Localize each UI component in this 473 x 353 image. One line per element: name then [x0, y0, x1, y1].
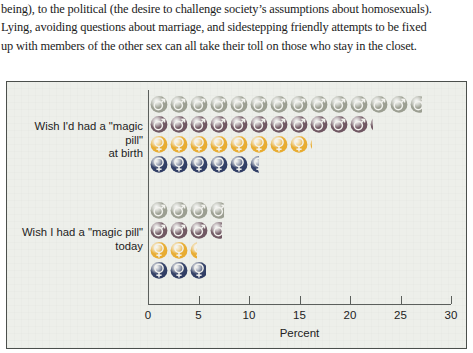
x-tick-label-0: 0: [145, 309, 151, 321]
male-symbol-icon: [269, 94, 289, 114]
category-label-1: Wish I'd had a "magic pill"at birth: [17, 120, 143, 161]
male-symbol-icon: [389, 94, 409, 114]
x-tick-15: [300, 296, 301, 304]
female-symbol-icon: [269, 134, 289, 154]
x-tick-label-15: 15: [293, 309, 306, 321]
male-symbol-icon: [189, 200, 209, 220]
female-symbol-icon: [169, 260, 189, 280]
pictogram-row-series-2-group-1: [149, 114, 373, 134]
male-symbol-icon: [209, 220, 222, 240]
male-symbol-icon: [169, 220, 189, 240]
male-symbol-icon: [329, 114, 349, 134]
pictogram-row-series-1-group-1: [149, 94, 422, 114]
x-tick-20: [350, 296, 351, 304]
male-symbol-icon: [149, 94, 169, 114]
x-axis-line: [148, 304, 451, 305]
prose-line: up with members of the other sex can all…: [1, 37, 473, 55]
female-symbol-icon: [209, 154, 229, 174]
pictogram-row-series-4-group-2: [149, 260, 206, 280]
male-symbol-icon: [309, 114, 329, 134]
x-tick-5: [199, 296, 200, 304]
x-tick-label-25: 25: [394, 309, 407, 321]
male-symbol-icon: [189, 94, 209, 114]
male-symbol-icon: [149, 220, 169, 240]
male-symbol-icon: [329, 94, 349, 114]
x-tick-25: [401, 296, 402, 304]
female-symbol-icon: [189, 134, 209, 154]
male-symbol-icon: [289, 94, 309, 114]
pictogram-row-series-3-group-1: [149, 134, 312, 154]
x-tick-label-30: 30: [445, 309, 458, 321]
male-symbol-icon: [169, 200, 189, 220]
x-tick-10: [249, 296, 250, 304]
female-symbol-icon: [309, 134, 312, 154]
male-symbol-icon: [209, 114, 229, 134]
male-symbol-icon: [189, 114, 209, 134]
female-symbol-icon: [169, 134, 189, 154]
x-tick-label-10: 10: [243, 309, 256, 321]
pictogram-row-series-4-group-1: [149, 154, 259, 174]
x-axis-title: Percent: [148, 327, 451, 339]
female-symbol-icon: [209, 134, 229, 154]
category-label-line: today: [17, 240, 143, 254]
male-symbol-icon: [169, 94, 189, 114]
body-text: being), to the political (the desire to …: [0, 0, 473, 78]
male-symbol-icon: [169, 114, 189, 134]
male-symbol-icon: [309, 94, 329, 114]
male-symbol-icon: [229, 94, 249, 114]
male-symbol-icon: [369, 94, 389, 114]
female-symbol-icon: [289, 134, 309, 154]
female-symbol-icon: [149, 260, 169, 280]
male-symbol-icon: [209, 94, 229, 114]
male-symbol-icon: [349, 114, 369, 134]
female-symbol-icon: [169, 240, 189, 260]
male-symbol-icon: [349, 94, 369, 114]
male-symbol-icon: [209, 200, 224, 220]
female-symbol-icon: [169, 154, 189, 174]
category-label-line: at birth: [17, 147, 143, 161]
pictogram-row-series-1-group-2: [149, 200, 224, 220]
male-symbol-icon: [409, 94, 422, 114]
category-label-2: Wish I had a "magic pill"today: [17, 226, 143, 253]
female-symbol-icon: [229, 154, 249, 174]
female-symbol-icon: [189, 240, 197, 260]
x-tick-0: [148, 296, 149, 304]
female-symbol-icon: [229, 134, 249, 154]
x-tick-30: [451, 296, 452, 304]
male-symbol-icon: [249, 114, 269, 134]
female-symbol-icon: [149, 154, 169, 174]
figure-pictogram-chart: 051015202530 Percent Wish I'd had a "mag…: [6, 81, 467, 349]
x-tick-label-20: 20: [344, 309, 357, 321]
male-symbol-icon: [229, 114, 249, 134]
male-symbol-icon: [289, 114, 309, 134]
male-symbol-icon: [189, 220, 209, 240]
male-symbol-icon: [249, 94, 269, 114]
male-symbol-icon: [149, 200, 169, 220]
female-symbol-icon: [189, 260, 206, 280]
pictogram-row-series-3-group-2: [149, 240, 197, 260]
female-symbol-icon: [149, 134, 169, 154]
category-label-line: Wish I had a "magic pill": [17, 226, 143, 240]
male-symbol-icon: [269, 114, 289, 134]
prose-line: being), to the political (the desire to …: [1, 0, 473, 18]
male-symbol-icon: [149, 114, 169, 134]
female-symbol-icon: [189, 154, 209, 174]
female-symbol-icon: [249, 134, 269, 154]
plot-area: 051015202530 Percent Wish I'd had a "mag…: [7, 82, 466, 348]
male-symbol-icon: [369, 114, 373, 134]
female-symbol-icon: [149, 240, 169, 260]
x-tick-label-5: 5: [195, 309, 201, 321]
female-symbol-icon: [249, 154, 259, 174]
category-label-line: Wish I'd had a "magic pill": [17, 120, 143, 147]
pictogram-row-series-2-group-2: [149, 220, 222, 240]
prose-line: Lying, avoiding questions about marriage…: [1, 18, 473, 36]
